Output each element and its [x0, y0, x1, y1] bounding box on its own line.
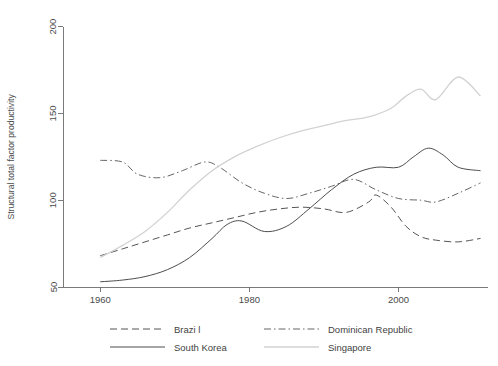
series-group — [100, 77, 480, 282]
line-chart: 50100150200196019802000Structural total … — [0, 0, 498, 366]
x-tick-label: 2000 — [388, 294, 409, 305]
series-line-south-korea — [100, 148, 480, 282]
axes-group: 50100150200196019802000Structural total … — [6, 19, 488, 305]
x-tick-label: 1980 — [239, 294, 260, 305]
legend-label-singapore: Singapore — [328, 342, 371, 353]
series-line-brazi-l — [100, 195, 480, 256]
legend: Brazi lDominican RepublicSouth KoreaSing… — [110, 324, 413, 353]
y-tick-label: 150 — [48, 106, 59, 122]
chart-figure: 50100150200196019802000Structural total … — [0, 0, 498, 366]
series-line-singapore — [100, 77, 480, 258]
x-tick-label: 1960 — [90, 294, 111, 305]
legend-label-south-korea: South Korea — [174, 342, 228, 353]
y-tick-label: 200 — [48, 19, 59, 35]
legend-label-brazi-l: Brazi l — [174, 324, 200, 335]
y-tick-label: 50 — [48, 282, 59, 293]
series-line-dominican-republic — [100, 160, 480, 202]
legend-label-dominican-republic: Dominican Republic — [328, 324, 413, 335]
y-tick-label: 100 — [48, 192, 59, 208]
y-axis-title: Structural total factor productivity — [6, 94, 16, 220]
